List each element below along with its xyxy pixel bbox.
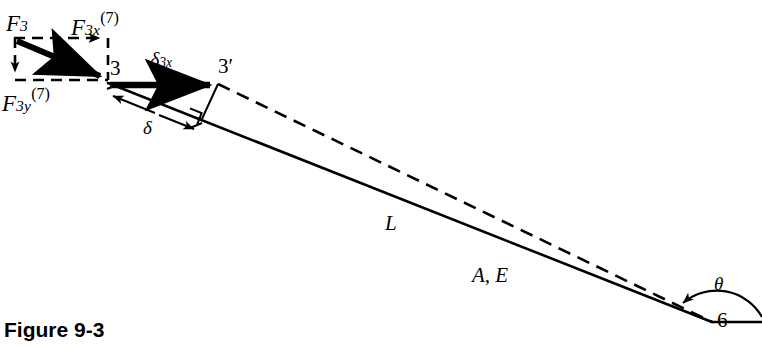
bar-deflected-axis	[218, 84, 712, 322]
node-6-label: 6	[717, 310, 728, 331]
node-3-prime-label: 3′	[218, 56, 233, 77]
figure-container: F3 F3x(7) F3y(7) 3 3′ 6 δ3x δ L A, E θ F…	[0, 0, 762, 347]
node-3-label: 3	[110, 58, 121, 79]
delta-arrow-right	[159, 115, 194, 129]
delta-3x-label: δ3x	[150, 50, 172, 70]
force-resultant-label: F3	[6, 12, 28, 35]
perpendicular-projection-line	[201, 84, 218, 121]
force-x-component-label: F3x(7)	[71, 16, 119, 39]
force-resultant-arrow	[17, 41, 100, 76]
force-y-component-label: F3y(7)	[2, 92, 50, 115]
delta-dimension	[107, 84, 202, 129]
angle-theta-label: θ	[714, 274, 723, 293]
delta-label: δ	[143, 118, 152, 137]
figure-diagram	[0, 0, 762, 347]
bar-length-label: L	[385, 213, 397, 234]
area-modulus-label: A, E	[472, 265, 508, 286]
figure-caption: Figure 9-3	[4, 318, 104, 342]
